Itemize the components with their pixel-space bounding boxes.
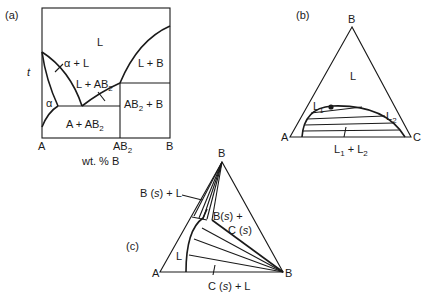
panel-c-tag: (c)	[126, 240, 139, 252]
tie-mark-cs-l	[213, 265, 215, 275]
x-tick-a: A	[38, 140, 46, 152]
region-c-solid-plus-liquid: C (s) + L	[208, 280, 251, 292]
phase-diagrams-figure: (a) t L α + L L + AB2 L + B α A + AB2 AB…	[0, 0, 428, 298]
x-tick-ab2: AB2	[113, 140, 133, 155]
region-liquid-plus-b: L + B	[138, 57, 164, 69]
panel-b-ternary-miscibility-gap: (b) B A C L L1 L2 L1 + L2	[281, 9, 421, 158]
region-liquid-plus-ab2: L + AB2	[76, 78, 113, 93]
panel-a-tag: (a)	[5, 9, 18, 21]
region-liquid: L	[176, 250, 182, 262]
tie-mark-l1-l2	[344, 127, 346, 137]
vertex-b: B	[348, 13, 355, 25]
plot-frame	[42, 8, 170, 138]
x-tick-b: B	[166, 140, 173, 152]
liquidus-b	[120, 26, 170, 83]
region-b-solid-plus-liquid: B (s) + L	[140, 187, 182, 199]
y-axis-label-temperature: t	[27, 66, 31, 78]
vertex-b-top: B	[218, 147, 225, 159]
tie-line-c	[194, 239, 283, 272]
tie-line	[303, 130, 400, 131]
vertex-c: C	[413, 131, 421, 143]
vertex-a: A	[152, 267, 160, 279]
region-alpha: α	[46, 97, 53, 109]
tie-line-c	[189, 255, 283, 272]
pointer-bs-l	[182, 195, 202, 200]
x-axis-label: wt. % B	[81, 155, 119, 167]
region-ab2-plus-b: AB2 + B	[124, 98, 163, 113]
vertex-b-right: B	[285, 267, 292, 279]
critical-point-marker	[328, 104, 333, 109]
region-liquid: L	[97, 36, 103, 48]
vertex-a: A	[281, 131, 289, 143]
tie-line	[307, 116, 385, 119]
panel-a-binary-diagram: (a) t L α + L L + AB2 L + B α A + AB2 AB…	[5, 8, 173, 167]
region-b-solid-plus-c-solid-2: C (s)	[228, 224, 252, 236]
region-a-plus-ab2: A + AB2	[66, 118, 104, 133]
region-l1-plus-l2: L1 + L2	[334, 143, 368, 158]
tie-line	[304, 123, 394, 125]
solvus-alpha	[42, 106, 58, 127]
region-liquid: L	[350, 70, 356, 82]
panel-c-ternary-solid-liquid: (c) B A B B (s) + L B(s) + C (s) L C (s)…	[126, 147, 292, 292]
region-alpha-plus-liquid: α + L	[64, 57, 89, 69]
region-b-solid-plus-c-solid-1: B(s) +	[213, 210, 243, 222]
panel-b-tag: (b)	[296, 9, 309, 21]
